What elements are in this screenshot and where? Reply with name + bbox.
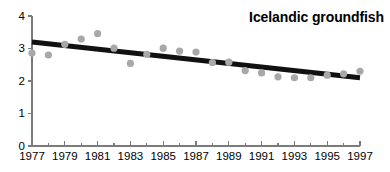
- data-point: [225, 59, 232, 66]
- data-point: [307, 74, 314, 81]
- data-point: [291, 74, 298, 81]
- data-point: [160, 45, 167, 52]
- data-point: [340, 70, 347, 77]
- data-point: [127, 60, 134, 67]
- chart-tick-labels: 0123419771979198119831985198719891991199…: [19, 10, 373, 162]
- x-tick-label: 1983: [118, 150, 144, 162]
- y-tick-label: 2: [19, 75, 25, 87]
- x-tick-label: 1981: [85, 150, 111, 162]
- data-point: [176, 48, 183, 55]
- data-point: [258, 69, 265, 76]
- y-tick-label: 4: [19, 10, 26, 22]
- data-point: [242, 67, 249, 74]
- data-point: [143, 51, 150, 58]
- x-tick-label: 1993: [282, 150, 308, 162]
- data-point: [28, 49, 35, 56]
- data-point: [61, 41, 68, 48]
- data-point: [45, 51, 52, 58]
- data-point: [209, 59, 216, 66]
- chart-title: Icelandic groundfish: [249, 9, 384, 25]
- data-point: [274, 73, 281, 80]
- trend-line-series: [32, 42, 360, 78]
- chart-figure: 0123419771979198119831985198719891991199…: [0, 0, 390, 172]
- x-tick-label: 1979: [52, 150, 78, 162]
- x-tick-label: 1985: [150, 150, 176, 162]
- data-point: [94, 30, 101, 37]
- x-tick-label: 1995: [314, 150, 340, 162]
- trend-line: [32, 42, 360, 78]
- data-point: [192, 48, 199, 55]
- data-point: [324, 72, 331, 79]
- y-tick-label: 1: [19, 107, 25, 119]
- y-tick-label: 3: [19, 42, 25, 54]
- x-tick-label: 1987: [183, 150, 209, 162]
- data-point: [356, 68, 363, 75]
- x-tick-label: 1989: [216, 150, 242, 162]
- x-tick-label: 1977: [19, 150, 45, 162]
- data-point: [110, 45, 117, 52]
- x-tick-label: 1997: [347, 150, 373, 162]
- chart-plot-area: 0123419771979198119831985198719891991199…: [0, 0, 390, 172]
- data-point: [78, 35, 85, 42]
- x-tick-label: 1991: [249, 150, 275, 162]
